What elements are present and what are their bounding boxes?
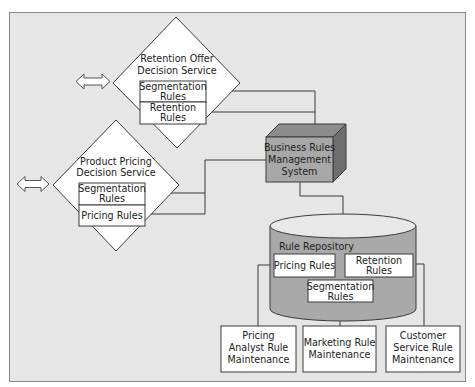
- repository-pricing-rules-label: Pricing Rules: [274, 260, 335, 271]
- maintenance-1-label-3: Maintenance: [228, 354, 290, 365]
- repository-title: Rule Repository: [279, 241, 354, 252]
- pricing-service-pricing-label: Pricing Rules: [81, 210, 142, 221]
- rule-repository: Rule Repository Pricing Rules Retention …: [270, 214, 416, 321]
- pricing-service-title-1: Product Pricing: [80, 156, 152, 167]
- pricing-analyst-rule-maintenance: Pricing Analyst Rule Maintenance: [221, 326, 296, 372]
- marketing-rule-maintenance: Marketing Rule Maintenance: [303, 326, 376, 372]
- diagram-canvas: Retention Offer Decision Service Segment…: [0, 0, 475, 387]
- business-rules-management-system: Business Rules Management System: [264, 124, 346, 182]
- retention-service-title-1: Retention Offer: [140, 53, 213, 64]
- maintenance-3-label-3: Maintenance: [392, 354, 454, 365]
- maintenance-1-label-1: Pricing: [242, 330, 274, 341]
- customer-service-rule-maintenance: Customer Service Rule Maintenance: [386, 326, 460, 372]
- retention-service-segmentation-label-2: Rules: [160, 91, 186, 102]
- maintenance-2-label-2: Maintenance: [309, 349, 371, 360]
- brms-label-1: Business Rules: [264, 142, 335, 153]
- pricing-service-segmentation-label-2: Rules: [99, 193, 125, 204]
- retention-service-title-2: Decision Service: [137, 65, 216, 76]
- repository-segmentation-label-2: Rules: [328, 291, 354, 302]
- pricing-service-title-2: Decision Service: [76, 167, 155, 178]
- maintenance-1-label-2: Analyst Rule: [229, 342, 289, 353]
- maintenance-3-label-2: Service Rule: [393, 342, 452, 353]
- repository-retention-label-2: Rules: [366, 265, 392, 276]
- retention-service-retention-label-2: Rules: [160, 112, 186, 123]
- maintenance-3-label-1: Customer: [400, 330, 447, 341]
- maintenance-2-label-1: Marketing Rule: [304, 337, 376, 348]
- brms-label-3: System: [282, 166, 318, 177]
- brms-label-2: Management: [268, 154, 331, 165]
